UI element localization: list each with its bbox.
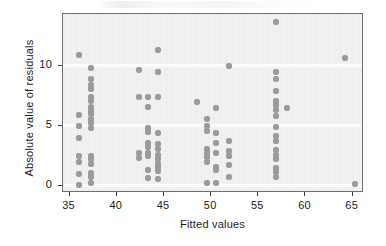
y-tick-0: [58, 185, 62, 186]
data-point: [273, 113, 279, 119]
scatter-plot-figure: 35404550556065 0510 Fitted values Absolu…: [0, 0, 386, 246]
data-point: [273, 156, 279, 162]
gridline-y-10: [63, 64, 362, 67]
data-point: [76, 112, 82, 118]
data-point: [226, 153, 232, 159]
x-tick-label-65: 65: [332, 199, 372, 211]
x-tick-label-50: 50: [190, 199, 230, 211]
data-point: [273, 19, 279, 25]
data-point: [76, 171, 82, 177]
x-tick-55: [257, 192, 258, 196]
data-point: [155, 130, 161, 136]
x-tick-40: [116, 192, 117, 196]
data-point: [88, 161, 94, 167]
data-point: [88, 180, 94, 186]
data-point: [213, 105, 219, 111]
data-point: [273, 76, 279, 82]
data-point: [226, 162, 232, 168]
data-point: [204, 116, 210, 122]
data-point: [145, 94, 151, 100]
y-axis-label: Absolute value of residuals: [23, 18, 35, 198]
x-axis-label: Fitted values: [62, 218, 363, 230]
scan-artifact: [95, 1, 325, 8]
y-tick-10: [58, 65, 62, 66]
data-point: [273, 138, 279, 144]
data-point: [213, 140, 219, 146]
data-point: [226, 138, 232, 144]
data-point: [213, 167, 219, 173]
data-point: [284, 105, 290, 111]
data-point: [76, 135, 82, 141]
gridline-y-0: [63, 184, 362, 187]
data-point: [76, 159, 82, 165]
data-point: [88, 65, 94, 71]
x-tick-45: [163, 192, 164, 196]
data-point: [136, 155, 142, 161]
plot-panel: [62, 13, 363, 192]
gridline-y-5: [63, 124, 362, 127]
data-point: [213, 150, 219, 156]
data-point: [155, 94, 161, 100]
data-point: [273, 69, 279, 75]
x-tick-label-40: 40: [96, 199, 136, 211]
data-point: [76, 182, 82, 188]
data-point: [273, 88, 279, 94]
data-point: [145, 144, 151, 150]
data-point: [352, 181, 358, 187]
data-point: [145, 129, 151, 135]
data-point: [204, 159, 210, 165]
data-point: [76, 123, 82, 129]
data-point: [76, 52, 82, 58]
data-point: [273, 174, 279, 180]
data-point: [145, 167, 151, 173]
x-tick-60: [304, 192, 305, 196]
data-point: [342, 55, 348, 61]
data-point: [145, 153, 151, 159]
data-point: [213, 130, 219, 136]
data-point: [204, 180, 210, 186]
data-point: [273, 124, 279, 130]
data-point: [145, 104, 151, 110]
x-tick-label-60: 60: [284, 199, 324, 211]
data-point: [155, 69, 161, 75]
data-point: [155, 176, 161, 182]
data-point: [204, 128, 210, 134]
x-tick-50: [210, 192, 211, 196]
y-tick-5: [58, 125, 62, 126]
data-point: [213, 180, 219, 186]
x-tick-label-45: 45: [143, 199, 183, 211]
data-point: [194, 99, 200, 105]
x-tick-65: [352, 192, 353, 196]
data-point: [226, 174, 232, 180]
data-point: [155, 168, 161, 174]
x-tick-label-35: 35: [49, 199, 89, 211]
data-point: [136, 94, 142, 100]
data-point: [145, 175, 151, 181]
data-point: [88, 125, 94, 131]
x-tick-35: [69, 192, 70, 196]
data-point: [226, 63, 232, 69]
data-point: [88, 86, 94, 92]
data-point: [273, 107, 279, 113]
data-point: [136, 67, 142, 73]
x-tick-label-55: 55: [237, 199, 277, 211]
data-point: [155, 47, 161, 53]
